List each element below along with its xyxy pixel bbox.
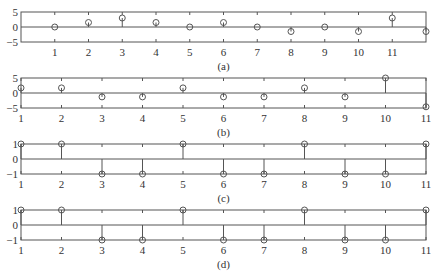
x-tick-label: 10	[380, 244, 392, 256]
x-tick-label: 1	[18, 244, 24, 256]
y-tick-label: −1	[6, 168, 18, 180]
x-tick-label: 8	[302, 112, 308, 124]
x-tick-label: 3	[99, 244, 105, 256]
x-tick-label: 2	[59, 244, 65, 256]
x-tick-label: 10	[380, 178, 392, 190]
x-tick-label: 10	[380, 112, 392, 124]
x-tick-label: 4	[140, 244, 146, 256]
stem-plot-figure: 1234567891011−505(a)1234567891011−505(b)…	[0, 0, 437, 273]
subplot-caption: (c)	[217, 192, 230, 205]
subplot-b: 1234567891011−505(b)	[6, 72, 431, 139]
x-tick-label: 3	[120, 46, 126, 58]
x-tick-label: 1	[18, 178, 24, 190]
x-tick-label: 6	[221, 244, 227, 256]
x-tick-label: 8	[302, 178, 308, 190]
x-tick-label: 1	[18, 112, 24, 124]
x-tick-label: 5	[180, 244, 186, 256]
x-tick-label: 6	[221, 112, 227, 124]
x-tick-label: 4	[153, 46, 159, 58]
y-tick-label: 0	[13, 153, 19, 165]
x-tick-label: 1	[52, 46, 58, 58]
subplot-d: 1234567891011−101(d)	[6, 204, 431, 271]
subplot-caption: (d)	[217, 258, 230, 271]
y-tick-label: 0	[13, 21, 19, 33]
x-tick-label: 7	[255, 46, 261, 58]
x-tick-label: 3	[99, 112, 105, 124]
x-tick-label: 2	[59, 112, 65, 124]
x-tick-label: 4	[140, 178, 146, 190]
y-tick-label: 0	[13, 219, 19, 231]
y-tick-label: 5	[13, 72, 19, 84]
x-tick-label: 3	[99, 178, 105, 190]
x-tick-label: 6	[221, 178, 227, 190]
x-tick-label: 9	[342, 244, 348, 256]
x-tick-label: 11	[387, 46, 398, 58]
y-tick-label: 1	[13, 204, 19, 216]
x-tick-label: 6	[221, 46, 227, 58]
x-tick-label: 4	[140, 112, 146, 124]
x-tick-label: 5	[180, 112, 186, 124]
x-tick-label: 8	[302, 244, 308, 256]
subplot-c: 1234567891011−101(c)	[6, 138, 431, 205]
x-tick-label: 7	[261, 178, 267, 190]
x-tick-label: 11	[421, 178, 432, 190]
x-tick-label: 2	[59, 178, 65, 190]
subplot-caption: (a)	[217, 60, 230, 73]
x-tick-label: 9	[342, 112, 348, 124]
x-tick-label: 5	[187, 46, 193, 58]
x-tick-label: 7	[261, 244, 267, 256]
x-tick-label: 7	[261, 112, 267, 124]
y-tick-label: 5	[13, 6, 19, 18]
x-tick-label: 11	[421, 112, 432, 124]
y-tick-label: −5	[6, 36, 18, 48]
y-tick-label: 0	[13, 87, 19, 99]
y-tick-label: 1	[13, 138, 19, 150]
x-tick-label: 9	[342, 178, 348, 190]
x-tick-label: 11	[421, 244, 432, 256]
y-tick-label: −1	[6, 234, 18, 246]
x-tick-label: 8	[288, 46, 294, 58]
x-tick-label: 10	[353, 46, 365, 58]
x-tick-label: 9	[322, 46, 328, 58]
x-tick-label: 5	[180, 178, 186, 190]
subplot-a: 1234567891011−505(a)	[6, 6, 429, 73]
subplot-caption: (b)	[217, 126, 230, 139]
x-tick-label: 2	[86, 46, 92, 58]
y-tick-label: −5	[6, 102, 18, 114]
